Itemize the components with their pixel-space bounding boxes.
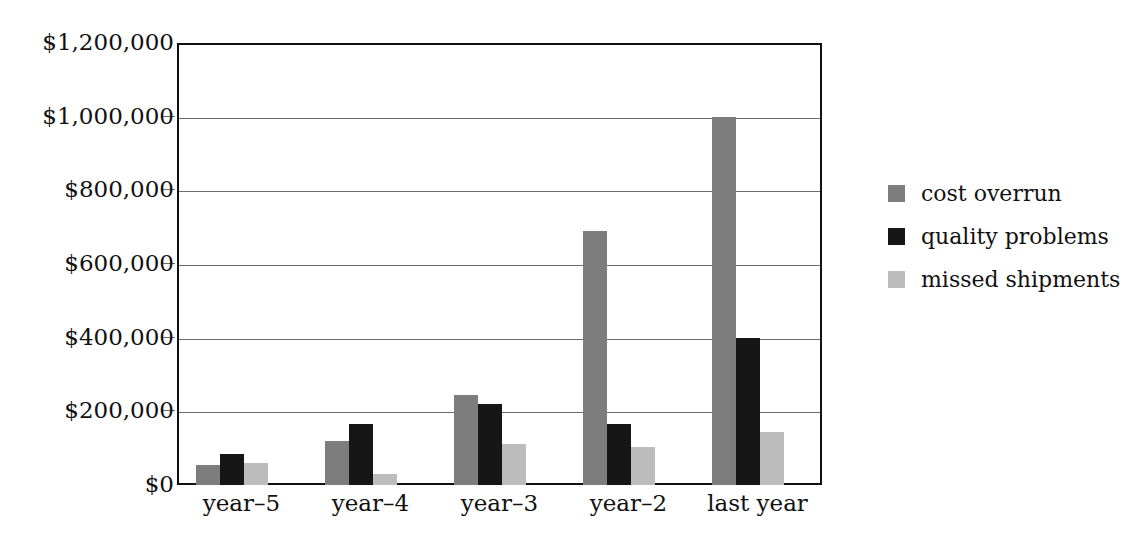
bar: [454, 395, 478, 485]
y-tick-label: $800,000: [4, 178, 174, 201]
legend-item: cost overrun: [888, 172, 1138, 215]
x-tick-label: year–5: [177, 492, 306, 515]
bar-group: [325, 43, 397, 485]
x-tick-label: year–2: [564, 492, 693, 515]
legend: cost overrunquality problemsmissed shipm…: [888, 172, 1138, 301]
bar: [220, 454, 244, 485]
bar: [736, 338, 760, 485]
legend-swatch-icon: [888, 271, 905, 288]
legend-item: quality problems: [888, 215, 1138, 258]
bar-group: [583, 43, 655, 485]
y-tick-label: $1,000,000: [4, 105, 174, 128]
bar: [631, 447, 655, 485]
bar: [502, 444, 526, 485]
legend-label: missed shipments: [921, 267, 1120, 292]
y-tick-label: $600,000: [4, 252, 174, 275]
bar: [712, 117, 736, 485]
legend-swatch-icon: [888, 185, 905, 202]
x-tick-label: last year: [693, 492, 822, 515]
y-tick-label: $400,000: [4, 326, 174, 349]
x-axis: year–5year–4year–3year–2last year: [177, 492, 822, 532]
bar: [607, 424, 631, 485]
legend-label: quality problems: [921, 224, 1109, 249]
bars-layer: [177, 43, 822, 485]
x-tick-label: year–3: [435, 492, 564, 515]
y-tick-label: $200,000: [4, 399, 174, 422]
bar: [325, 441, 349, 485]
y-tick-label: $1,200,000: [4, 31, 174, 54]
y-axis: $0$200,000$400,000$600,000$800,000$1,000…: [0, 0, 174, 550]
legend-swatch-icon: [888, 228, 905, 245]
bar-group: [196, 43, 268, 485]
bar: [349, 424, 373, 485]
legend-item: missed shipments: [888, 258, 1138, 301]
bar: [583, 231, 607, 485]
x-tick-label: year–4: [306, 492, 435, 515]
bar: [478, 404, 502, 485]
legend-label: cost overrun: [921, 181, 1062, 206]
bar: [373, 474, 397, 485]
y-tick-label: $0: [4, 473, 174, 496]
bar: [760, 432, 784, 485]
bar-group: [454, 43, 526, 485]
bar: [196, 465, 220, 485]
bar-group: [712, 43, 784, 485]
bar-chart-figure: $0$200,000$400,000$600,000$800,000$1,000…: [0, 0, 1144, 550]
bar: [244, 463, 268, 485]
